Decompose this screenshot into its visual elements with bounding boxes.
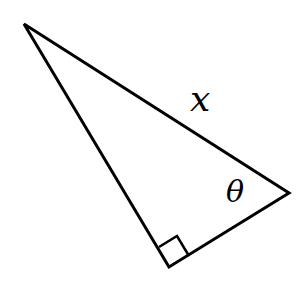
angle-label: θ	[226, 174, 244, 209]
triangle	[24, 24, 289, 267]
hypotenuse-label: x	[190, 78, 210, 119]
triangle-figure	[0, 0, 306, 286]
right-angle-marker	[159, 236, 189, 256]
diagram: x θ	[0, 0, 306, 286]
